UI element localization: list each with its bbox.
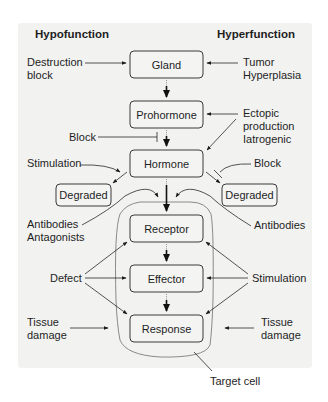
response-box: Response [130, 315, 203, 342]
label-target-cell: Target cell [210, 375, 260, 387]
receptor-label: Receptor [144, 223, 189, 235]
hormone-box: Hormone [130, 150, 203, 177]
gland-label: Gland [152, 59, 181, 71]
header-hypofunction: Hypofunction [35, 28, 109, 40]
degraded-right-label: Degraded [225, 189, 273, 201]
label-antibodies-right: Antibodies [254, 219, 306, 231]
prohormone-box: Prohormone [130, 101, 203, 128]
label-antibodies-antagonists: Antibodies Antagonists [27, 218, 85, 243]
degraded-left-box: Degraded [56, 184, 111, 206]
prohormone-label: Prohormone [136, 109, 197, 121]
hormone-label: Hormone [144, 158, 189, 170]
label-stimulation-left: Stimulation [27, 157, 81, 169]
response-label: Response [142, 323, 192, 335]
receptor-box: Receptor [130, 215, 203, 242]
degraded-right-box: Degraded [222, 184, 277, 206]
endocrine-dysfunction-diagram: Hypofunction Hyperfunction Gland Prohorm… [0, 0, 328, 402]
effector-box: Effector [130, 265, 203, 292]
header-hyperfunction: Hyperfunction [217, 28, 295, 40]
degraded-left-label: Degraded [59, 189, 107, 201]
label-tissue-damage-right: Tissue damage [261, 316, 301, 341]
gland-box: Gland [130, 51, 203, 78]
label-tissue-damage-left: Tissue damage [27, 316, 67, 341]
effector-label: Effector [148, 273, 186, 285]
label-block-left: Block [69, 131, 96, 143]
label-block-right: Block [254, 157, 281, 169]
label-defect: Defect [50, 272, 82, 284]
label-stimulation-right: Stimulation [252, 272, 306, 284]
